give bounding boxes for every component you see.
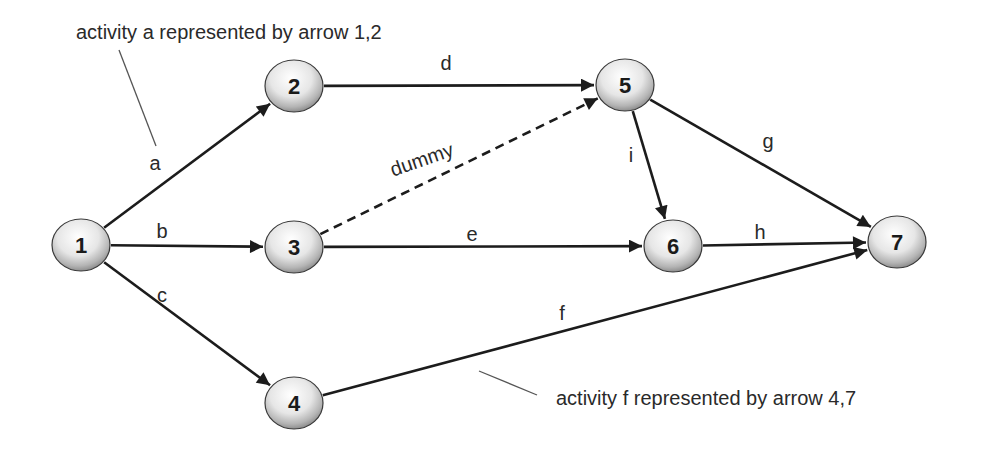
node-2: 2 <box>265 60 323 112</box>
edge-g-arrow <box>650 100 871 227</box>
annotation-f-text: activity f represented by arrow 4,7 <box>556 387 856 409</box>
node-6-label: 6 <box>667 234 679 259</box>
edge-label-g: g <box>762 130 773 152</box>
edge-label-dummy: dummy <box>387 138 456 180</box>
node-5-label: 5 <box>619 73 631 98</box>
node-7-label: 7 <box>891 230 903 255</box>
edge-i-arrow <box>633 111 665 219</box>
node-3: 3 <box>265 221 323 273</box>
node-6: 6 <box>644 220 702 272</box>
annotation-a-text: activity a represented by arrow 1,2 <box>76 21 382 43</box>
node-1: 1 <box>52 219 110 271</box>
edge-b-arrow <box>111 245 263 246</box>
edge-label-h: h <box>754 221 765 243</box>
node-1-label: 1 <box>75 233 87 258</box>
edge-h-arrow <box>703 243 866 246</box>
network-diagram: activity a represented by arrow 1,2 acti… <box>0 0 1003 450</box>
edge-label-b: b <box>156 220 167 242</box>
node-7: 7 <box>868 216 926 268</box>
edge-label-e: e <box>466 223 477 245</box>
edge-dummy-arrow <box>320 98 597 234</box>
edge-label-f: f <box>559 302 565 324</box>
edge-label-d: d <box>440 52 451 74</box>
edge-label-c: c <box>157 284 167 306</box>
edge-e-arrow <box>324 246 642 247</box>
node-4-label: 4 <box>288 391 301 416</box>
node-4: 4 <box>265 377 323 429</box>
edge-label-i: i <box>629 144 633 166</box>
edge-d-arrow <box>324 85 594 86</box>
edge-a-arrow <box>104 104 270 228</box>
edge-c-arrow <box>104 262 270 385</box>
annotation-f-leader-line <box>479 371 537 395</box>
annotation-a-leader-line <box>119 50 156 146</box>
node-3-label: 3 <box>288 235 300 260</box>
edge-f-arrow <box>323 250 868 395</box>
node-5: 5 <box>596 59 654 111</box>
node-2-label: 2 <box>288 74 300 99</box>
edge-label-a: a <box>149 152 161 174</box>
